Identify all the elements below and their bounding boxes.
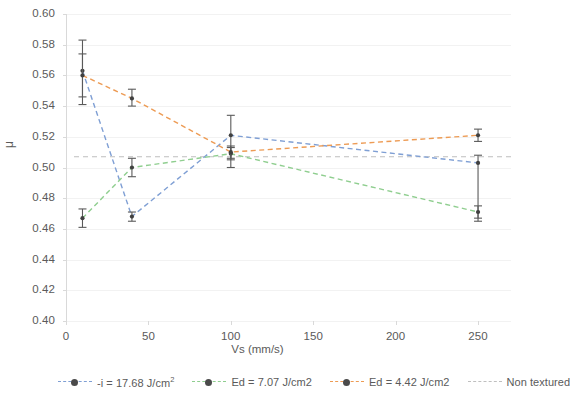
x-axis-tick <box>478 321 479 325</box>
series-line <box>83 71 479 217</box>
series-line <box>83 75 479 152</box>
gridline <box>66 106 511 107</box>
legend-item-label: -i = 17.68 J/cm2 <box>97 375 174 389</box>
x-axis-tick <box>148 321 149 325</box>
legend-key-swatch <box>330 377 364 387</box>
data-point-marker <box>476 161 480 165</box>
y-axis-tick-label: 0.40 <box>11 314 55 326</box>
x-axis-tick-label: 50 <box>128 330 168 342</box>
gridline <box>66 321 511 322</box>
series-line <box>83 154 479 219</box>
x-axis-tick <box>396 321 397 325</box>
x-axis-tick-label: 250 <box>458 330 498 342</box>
legend-item-label: Ed = 4.42 J/cm2 <box>369 376 450 388</box>
y-axis-tick <box>63 106 67 107</box>
gridline <box>66 260 511 261</box>
legend-marker-icon <box>343 379 350 386</box>
y-axis-tick-label: 0.42 <box>11 283 55 295</box>
gridline <box>66 14 511 15</box>
legend-key-swatch <box>192 377 226 387</box>
gridline <box>66 168 511 169</box>
x-axis-tick-label: 200 <box>376 330 416 342</box>
legend-item[interactable]: Non textured <box>468 376 570 388</box>
y-axis-tick-label: 0.46 <box>11 222 55 234</box>
x-axis-tick <box>66 321 67 325</box>
y-axis-tick <box>63 75 67 76</box>
legend-line-icon <box>468 381 502 382</box>
y-axis-title: μ <box>2 141 16 148</box>
data-point-marker <box>130 96 134 100</box>
legend-marker-icon <box>71 379 78 386</box>
gridline <box>66 290 511 291</box>
data-point-marker <box>130 215 134 219</box>
y-axis-tick-label: 0.48 <box>11 191 55 203</box>
x-axis-tick <box>313 321 314 325</box>
y-axis-tick <box>63 229 67 230</box>
x-axis-tick <box>231 321 232 325</box>
data-point-marker <box>80 216 84 220</box>
legend-item[interactable]: Ed = 4.42 J/cm2 <box>330 376 450 388</box>
legend-item-label: Non textured <box>507 376 570 388</box>
legend-item[interactable]: -i = 17.68 J/cm2 <box>58 375 174 389</box>
y-axis-tick <box>63 260 67 261</box>
y-axis-tick-label: 0.60 <box>11 7 55 19</box>
gridline <box>66 45 511 46</box>
gridline <box>66 75 511 76</box>
legend-label-superscript: 2 <box>170 375 174 384</box>
chart-legend: -i = 17.68 J/cm2Ed = 7.07 J/cm2Ed = 4.42… <box>0 371 515 393</box>
y-axis-tick-label: 0.52 <box>11 130 55 142</box>
y-axis-tick-label: 0.44 <box>11 253 55 265</box>
x-axis-tick-label: 100 <box>211 330 251 342</box>
data-point-marker <box>229 152 233 156</box>
gridline <box>66 137 511 138</box>
x-axis-tick-label: 0 <box>46 330 86 342</box>
y-axis-tick <box>63 198 67 199</box>
legend-key-swatch <box>468 377 502 387</box>
y-axis-tick <box>63 14 67 15</box>
series-0 <box>78 40 482 221</box>
legend-key-swatch <box>58 377 92 387</box>
legend-marker-icon <box>205 379 212 386</box>
gridline <box>66 198 511 199</box>
x-axis-title: Vs (mm/s) <box>0 343 515 355</box>
legend-item-label: Ed = 7.07 J/cm2 <box>231 376 312 388</box>
legend-item[interactable]: Ed = 7.07 J/cm2 <box>192 376 312 388</box>
y-axis-tick <box>63 137 67 138</box>
y-axis-tick <box>63 45 67 46</box>
y-axis-tick-label: 0.58 <box>11 38 55 50</box>
y-axis-tick <box>63 290 67 291</box>
y-axis-tick-label: 0.50 <box>11 161 55 173</box>
x-axis-tick-label: 150 <box>293 330 333 342</box>
data-point-marker <box>476 210 480 214</box>
data-point-marker <box>229 150 233 154</box>
y-axis-tick <box>63 168 67 169</box>
data-point-marker <box>80 69 84 73</box>
y-axis-tick-label: 0.56 <box>11 68 55 80</box>
series-1 <box>78 148 482 228</box>
y-axis-tick-label: 0.54 <box>11 99 55 111</box>
gridline <box>66 229 511 230</box>
